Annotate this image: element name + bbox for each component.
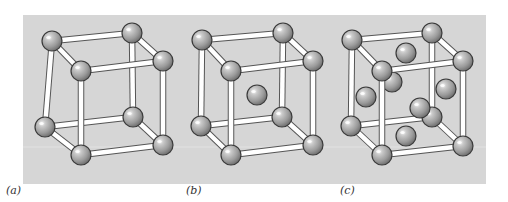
atom-corner [453,51,473,71]
sphere-highlight [414,103,418,106]
label-c: (c) [340,184,355,197]
atom-corner [153,51,173,71]
sphere-highlight [127,112,131,115]
sphere-highlight [345,121,349,124]
atom-inner [396,126,416,146]
atom-corner [422,23,442,43]
atom-corner [453,136,473,156]
sphere-highlight [346,35,350,38]
atom-inner [436,79,456,99]
sphere-highlight [46,36,50,39]
sphere-highlight [360,92,364,95]
atom-corner [221,145,241,165]
atom-corner [342,30,362,50]
label-a: (a) [6,184,21,197]
sphere-highlight [440,84,444,87]
bond-rod-highlight [282,33,283,117]
sphere-highlight [75,150,79,153]
label-b: (b) [186,184,202,197]
atom-corner [341,116,361,136]
bond-rod-highlight [201,40,202,126]
atom-corner [123,107,143,127]
atom-corner [303,135,323,155]
atom-corner [273,23,293,43]
bond-rod-highlight [351,40,352,126]
atom-corner [272,107,292,127]
atom-corner [372,145,392,165]
atom-corner [71,145,91,165]
atom-inner [396,43,416,63]
atom-corner [372,61,392,81]
atom-face [410,98,430,118]
sphere-highlight [196,35,200,38]
sphere-highlight [376,66,380,69]
atom-corner [221,61,241,81]
sphere-highlight [225,66,229,69]
atom-corner [192,30,212,50]
atom-inner [356,87,376,107]
sphere-highlight [157,140,161,143]
atom-corner [42,31,62,51]
atom-corner [35,117,55,137]
sphere-highlight [400,131,404,134]
sphere-highlight [75,66,79,69]
sphere-highlight [225,150,229,153]
sphere-highlight [126,28,130,31]
sphere-highlight [251,90,255,93]
atom-corner [191,116,211,136]
bond-rod-highlight [132,33,133,117]
sphere-highlight [276,112,280,115]
atom-corner [303,51,323,71]
atom-corner [153,135,173,155]
sphere-highlight [457,56,461,59]
atom-inner [247,85,267,105]
sphere-highlight [376,150,380,153]
sphere-highlight [277,28,281,31]
sphere-highlight [307,56,311,59]
sphere-highlight [426,28,430,31]
sphere-highlight [195,121,199,124]
atom-corner [71,61,91,81]
sphere-highlight [457,141,461,144]
sphere-highlight [157,56,161,59]
sphere-highlight [39,122,43,125]
crystal-lattice-figure [0,0,508,202]
sphere-highlight [307,140,311,143]
sphere-highlight [400,48,404,51]
atom-corner [122,23,142,43]
